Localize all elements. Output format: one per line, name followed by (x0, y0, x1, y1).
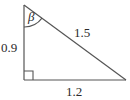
side-label-hypotenuse: 1.5 (74, 26, 90, 39)
angle-label-beta: β (28, 10, 34, 23)
right-angle-marker-icon (24, 71, 33, 80)
triangle-drawing (0, 0, 130, 100)
side-label-base-leg: 1.2 (66, 85, 82, 98)
triangle-figure: β 0.9 1.5 1.2 (0, 0, 130, 100)
hypotenuse-line (24, 5, 126, 80)
side-label-vertical-leg: 0.9 (1, 41, 17, 54)
